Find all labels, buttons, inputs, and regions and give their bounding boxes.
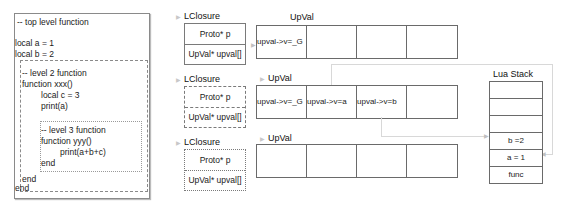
- lua-stack: b =2 a = 1 func: [489, 81, 543, 184]
- upval-cell: [407, 145, 457, 177]
- lclosure-label-text: LClosure: [184, 11, 220, 21]
- triangle-marker-icon: ▶: [176, 140, 181, 146]
- upval-array: [256, 144, 458, 178]
- proto-field: Proto* p: [185, 150, 245, 170]
- triangle-marker-icon: ▶: [176, 77, 181, 83]
- stack-slot-b: b =2: [490, 132, 542, 149]
- level3-comment: -- level 3 function: [41, 125, 106, 136]
- upval-array-field: UpVal* upval[]: [185, 44, 245, 64]
- stack-slot: [490, 82, 542, 98]
- triangle-marker-icon: ▶: [260, 76, 265, 82]
- stack-slot-func: func: [490, 166, 542, 183]
- lclosure-label-text: LClosure: [184, 137, 220, 147]
- triangle-marker-icon: ▶: [260, 136, 265, 142]
- upval-cell: [407, 26, 457, 58]
- upval-array: upval->v=_G: [256, 25, 458, 59]
- upval-cell: upval->v=_G: [257, 86, 307, 118]
- connector-a-horizontal: [331, 64, 553, 65]
- top-level-end: end: [15, 183, 29, 194]
- level2-body-line: print(a): [41, 101, 68, 112]
- lclosure-box: Proto* p UpVal* upval[]: [184, 149, 246, 191]
- connector-a-down: [552, 64, 553, 155]
- upval-cell: [357, 145, 407, 177]
- code-line-local-b: local b = 2: [15, 49, 54, 60]
- level2-header: function xxx(): [22, 79, 73, 90]
- top-level-comment: -- top level function: [17, 17, 89, 28]
- upval-cell: upval->v=_G: [257, 26, 307, 58]
- upval-cell: upval->v=b: [357, 86, 407, 118]
- upval-label: UpVal: [290, 12, 314, 23]
- upval-cell: upval->v=a: [307, 86, 357, 118]
- level3-body-line: print(a+b+c): [60, 147, 106, 158]
- lclosure-label: ▶LClosure: [176, 137, 220, 149]
- lua-stack-title: Lua Stack: [493, 69, 533, 80]
- stack-slot-a: a = 1: [490, 149, 542, 166]
- upval-label: ▶UpVal: [260, 73, 292, 85]
- proto-field: Proto* p: [185, 87, 245, 107]
- stack-slot: [490, 115, 542, 132]
- connector-b-horizontal: [381, 136, 485, 137]
- level2-comment: -- level 2 function: [22, 68, 87, 79]
- triangle-marker-icon: ▶: [176, 14, 181, 20]
- level3-end: end: [41, 158, 55, 169]
- code-line-local-a: local a = 1: [15, 38, 54, 49]
- proto-field: Proto* p: [185, 24, 245, 44]
- upval-cell: [257, 145, 307, 177]
- lclosure-label: ▶LClosure: [176, 11, 220, 23]
- upval-label-text: UpVal: [268, 133, 292, 143]
- upval-array-field: UpVal* upval[]: [185, 170, 245, 190]
- upval-cell: [307, 26, 357, 58]
- connector-b-vertical: [381, 117, 382, 137]
- upval-cell: [407, 86, 457, 118]
- stack-slot: [490, 98, 542, 115]
- level2-body-line: local c = 3: [41, 90, 80, 101]
- lclosure-box: Proto* p UpVal* upval[]: [184, 86, 246, 128]
- upval-label-text: UpVal: [268, 73, 292, 83]
- upval-array-field: UpVal* upval[]: [185, 107, 245, 127]
- upval-cell: [357, 26, 407, 58]
- upval-cell: [307, 145, 357, 177]
- connector-a-vertical: [331, 64, 332, 85]
- lclosure-box: Proto* p UpVal* upval[]: [184, 23, 246, 65]
- upval-array: upval->v=_G upval->v=a upval->v=b: [256, 85, 458, 119]
- lclosure-label-text: LClosure: [184, 74, 220, 84]
- lclosure-label: ▶LClosure: [176, 74, 220, 86]
- level3-header: function yyy(): [41, 136, 92, 147]
